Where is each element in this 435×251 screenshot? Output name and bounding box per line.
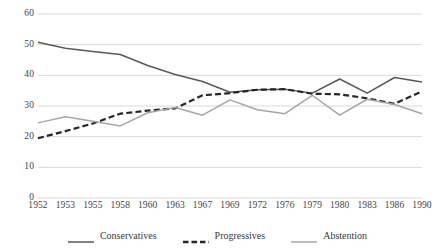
legend-item-conservatives[interactable]: Conservatives bbox=[68, 231, 157, 241]
x-tick-label: 1990 bbox=[412, 201, 431, 211]
series-layer bbox=[38, 42, 422, 138]
legend-label: Abstention bbox=[323, 231, 367, 241]
x-tick-label: 1955 bbox=[83, 201, 102, 211]
x-tick-label: 1986 bbox=[385, 201, 404, 211]
x-tick-label: 1969 bbox=[220, 201, 239, 211]
plot-svg bbox=[38, 14, 422, 198]
series-line-abstention bbox=[38, 95, 422, 126]
line-solid-dark-icon bbox=[68, 232, 94, 240]
x-tick-label: 1952 bbox=[28, 201, 47, 211]
line-chart: 6050403020100 19521953195519581960196319… bbox=[0, 0, 435, 251]
x-tick-label: 1976 bbox=[275, 201, 294, 211]
gridlines bbox=[38, 14, 422, 198]
chart-legend: ConservativesProgressivesAbstention bbox=[0, 226, 435, 246]
legend-label: Conservatives bbox=[100, 231, 157, 241]
x-tick-label: 1979 bbox=[303, 201, 322, 211]
series-line-progressives bbox=[38, 89, 422, 138]
legend-label: Progressives bbox=[215, 231, 266, 241]
x-tick-label: 1972 bbox=[248, 201, 267, 211]
x-tick-label: 1963 bbox=[165, 201, 184, 211]
x-tick-label: 1967 bbox=[193, 201, 212, 211]
y-tick-label: 50 bbox=[4, 40, 34, 50]
y-tick-label: 10 bbox=[4, 162, 34, 172]
legend-item-progressives[interactable]: Progressives bbox=[183, 231, 266, 241]
legend-item-abstention[interactable]: Abstention bbox=[291, 231, 367, 241]
y-tick-label: 30 bbox=[4, 101, 34, 111]
line-dashed-dark-icon bbox=[183, 232, 209, 240]
x-tick-label: 1983 bbox=[357, 201, 376, 211]
x-tick-label: 1958 bbox=[111, 201, 130, 211]
x-tick-label: 1980 bbox=[330, 201, 349, 211]
y-axis: 6050403020100 bbox=[0, 14, 34, 198]
y-tick-label: 60 bbox=[4, 9, 34, 19]
x-tick-label: 1953 bbox=[56, 201, 75, 211]
x-axis: 1952195319551958196019631967196919721976… bbox=[38, 201, 422, 217]
x-tick-label: 1960 bbox=[138, 201, 157, 211]
line-solid-gray-icon bbox=[291, 232, 317, 240]
series-line-conservatives bbox=[38, 42, 422, 93]
y-tick-label: 40 bbox=[4, 70, 34, 80]
y-tick-label: 20 bbox=[4, 132, 34, 142]
plot-area bbox=[38, 14, 422, 198]
